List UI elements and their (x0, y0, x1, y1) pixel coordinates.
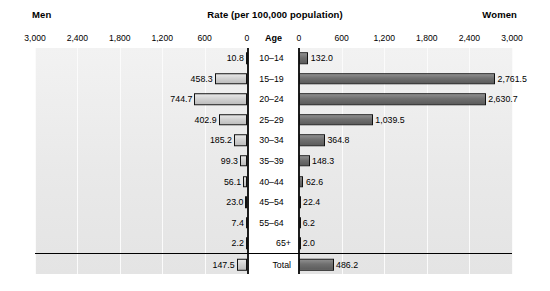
women-bar (299, 94, 486, 106)
age-group-label: Total (248, 260, 291, 269)
men-bar (234, 135, 247, 147)
chart-title: Rate (per 100,000 population) (0, 9, 550, 20)
men-value-label: 744.7 (170, 95, 192, 104)
women-bar (299, 135, 325, 147)
men-bar (194, 94, 247, 106)
chart-row: 458.315–192,761.5 (35, 69, 512, 90)
chart-row: 147.5Total486.2 (35, 253, 512, 275)
men-value-label: 99.3 (221, 157, 238, 166)
chart-row: 23.045–5422.4 (35, 192, 512, 213)
right-axis-tick: 1,200 (373, 33, 395, 43)
right-axis-tick: 1,800 (416, 33, 438, 43)
men-value-label: 10.8 (227, 54, 244, 63)
right-axis-tick: 600 (334, 33, 348, 43)
women-value-label: 132.0 (311, 54, 333, 63)
chart-row: 744.720–242,630.7 (35, 89, 512, 110)
chart-row: 56.140–4462.6 (35, 171, 512, 192)
men-value-label: 402.9 (195, 115, 217, 124)
women-value-label: 364.8 (327, 136, 349, 145)
women-column-header: Women (482, 9, 517, 20)
age-group-label: 45–54 (248, 198, 295, 207)
women-value-label: 62.6 (306, 177, 323, 186)
women-value-label: 486.2 (336, 260, 358, 269)
men-bar (237, 258, 247, 271)
women-value-label: 2,761.5 (498, 74, 527, 83)
men-value-label: 7.4 (232, 218, 244, 227)
age-group-label: 15–19 (248, 74, 295, 83)
age-group-label: 25–29 (248, 115, 295, 124)
chart-row: 185.230–34364.8 (35, 130, 512, 151)
age-group-label: 20–24 (248, 95, 295, 104)
men-value-label: 2.2 (232, 239, 244, 248)
women-value-label: 22.4 (303, 198, 320, 207)
women-value-label: 148.3 (312, 157, 334, 166)
right-axis-tick: 3,000 (501, 33, 523, 43)
plot-area: 10.810–14132.0458.315–192,761.5744.720–2… (35, 48, 512, 274)
women-bar (299, 155, 310, 167)
men-bar (243, 176, 247, 188)
men-bar (215, 73, 247, 85)
chart-row: 10.810–14132.0 (35, 48, 512, 69)
chart-row: 402.925–291,039.5 (35, 110, 512, 131)
right-axis-ticks: 06001,2001,8002,4003,000 (0, 33, 550, 45)
age-group-label: 35–39 (248, 157, 295, 166)
chart-row: 7.455–646.2 (35, 212, 512, 233)
women-bar (299, 114, 373, 126)
men-value-label: 23.0 (226, 198, 243, 207)
men-bar (240, 155, 247, 167)
age-group-label: 10–14 (248, 54, 295, 63)
men-value-label: 185.2 (210, 136, 232, 145)
women-value-label: 2.0 (303, 239, 315, 248)
women-bar (299, 73, 495, 85)
women-value-label: 2,630.7 (488, 95, 517, 104)
women-bar (299, 217, 301, 229)
women-value-label: 6.2 (303, 218, 315, 227)
chart-row: 99.335–39148.3 (35, 151, 512, 172)
age-group-label: 55–64 (248, 218, 295, 227)
men-value-label: 147.5 (213, 260, 235, 269)
women-value-label: 1,039.5 (375, 115, 404, 124)
men-value-label: 56.1 (224, 177, 241, 186)
age-group-label: 40–44 (248, 177, 295, 186)
women-bar (299, 176, 303, 188)
chart-row: 2.265+2.0 (35, 233, 512, 254)
population-pyramid-figure: Men Rate (per 100,000 population) Women … (0, 0, 550, 291)
age-group-label: 65+ (248, 239, 291, 248)
women-bar (299, 53, 308, 65)
age-group-label: 30–34 (248, 136, 295, 145)
men-value-label: 458.3 (191, 74, 213, 83)
right-axis-tick: 2,400 (459, 33, 481, 43)
men-bar (219, 114, 247, 126)
right-axis-tick: 0 (297, 33, 302, 43)
women-bar (299, 237, 301, 249)
women-bar (299, 196, 301, 208)
women-bar (299, 258, 334, 271)
